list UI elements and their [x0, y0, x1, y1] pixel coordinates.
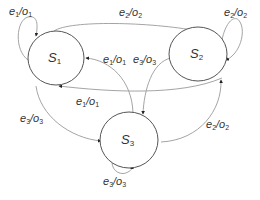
label-s3-s2: e2/o2	[206, 119, 229, 131]
label-s2-s2: e2/o2	[224, 7, 247, 19]
label-s1-s1: e1/o1	[9, 6, 32, 18]
label-s1-s3: e3/o3	[20, 113, 43, 125]
label-s3-s3: e3/o3	[103, 176, 126, 188]
label-s2-s3: e3/o3	[133, 54, 156, 66]
state-s3-label: S3	[121, 133, 134, 148]
label-s2-s1: e1/o1	[76, 96, 99, 108]
diagram-canvas	[0, 0, 260, 200]
state-s1-label: S1	[48, 51, 61, 66]
edge-s1-s2	[54, 23, 198, 31]
label-s3-s1: e1/o1	[103, 54, 126, 66]
state-diagram: S1 S2 S3 e1/o1 e2/o2 e3/o3 e2/o2 e1/o1 e…	[0, 0, 260, 200]
edge-s2-s3	[143, 58, 171, 114]
state-s2-label: S2	[190, 47, 203, 62]
label-s1-s2: e2/o2	[119, 7, 142, 19]
